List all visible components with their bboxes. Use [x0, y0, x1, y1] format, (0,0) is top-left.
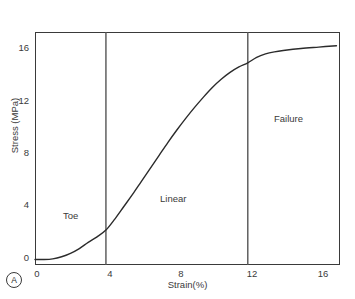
y-tick-label-4: 4: [5, 200, 29, 210]
x-tick-label-8: 8: [169, 269, 193, 279]
y-tick-label-0: 0: [5, 253, 29, 263]
panel-letter-badge: A: [6, 272, 22, 288]
y-tick-label-16: 16: [5, 43, 29, 53]
x-tick-label-4: 4: [98, 269, 122, 279]
y-axis-title: Stress (MPa): [9, 86, 20, 166]
chart-canvas: [35, 32, 340, 265]
x-tick-label-12: 12: [240, 269, 264, 279]
x-axis-title: Strain(%): [35, 279, 340, 290]
x-tick-label-16: 16: [311, 269, 335, 279]
stress-strain-curve: [35, 46, 336, 260]
figure-panel: 0 4 8 12 16 0 4 8 12 16 Stress (MPa) Str…: [0, 0, 355, 299]
x-tick-label-0: 0: [25, 269, 49, 279]
